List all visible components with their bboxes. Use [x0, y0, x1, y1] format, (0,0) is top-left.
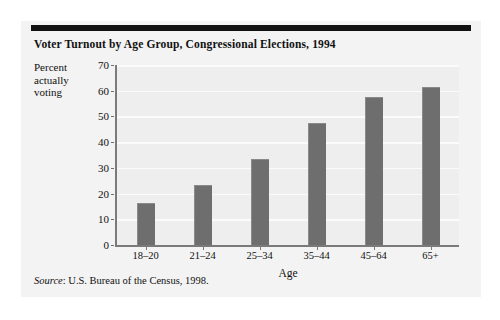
top-rule-decoration — [31, 25, 471, 31]
y-tick-label: 30 — [87, 162, 109, 174]
x-tick-label: 21–24 — [174, 250, 231, 261]
plot-area — [117, 65, 459, 245]
source-note: Source: U.S. Bureau of the Census, 1998. — [34, 275, 209, 286]
chart-title: Voter Turnout by Age Group, Congressiona… — [34, 38, 336, 50]
y-tick-label: 40 — [87, 136, 109, 148]
y-tick-label: 20 — [87, 188, 109, 200]
x-axis-line — [115, 245, 459, 247]
x-axis-tick-labels: 18–2021–2425–3435–4445–6465+ — [117, 250, 459, 261]
y-axis-line — [115, 65, 117, 246]
bar-slot — [174, 65, 231, 245]
x-tick-label: 65+ — [402, 250, 459, 261]
bar — [365, 97, 383, 245]
y-tick-label: 50 — [87, 110, 109, 122]
x-tick-label: 25–34 — [231, 250, 288, 261]
x-tick-label: 45–64 — [345, 250, 402, 261]
source-text: : U.S. Bureau of the Census, 1998. — [63, 275, 209, 286]
x-tick-label: 18–20 — [117, 250, 174, 261]
figure-box: Voter Turnout by Age Group, Congressiona… — [21, 21, 481, 297]
y-tick-mark — [111, 116, 114, 117]
bar-slot — [288, 65, 345, 245]
x-tick-label: 35–44 — [288, 250, 345, 261]
bar — [137, 203, 155, 245]
y-tick-label: 60 — [87, 85, 109, 97]
bar-slot — [402, 65, 459, 245]
bar-series — [117, 65, 459, 245]
y-tick-mark — [111, 65, 114, 66]
y-tick-mark — [111, 245, 114, 246]
y-tick-mark — [111, 168, 114, 169]
bar — [194, 185, 212, 245]
y-tick-mark — [111, 194, 114, 195]
bar — [422, 87, 440, 245]
y-axis-tick-labels: 010203040506070 — [87, 65, 109, 245]
y-tick-mark — [111, 91, 114, 92]
bar-slot — [117, 65, 174, 245]
y-tick-mark — [111, 219, 114, 220]
y-tick-label: 10 — [87, 213, 109, 225]
bar — [308, 123, 326, 245]
source-label: Source — [34, 275, 63, 286]
plot-wrapper: 010203040506070 18–2021–2425–3435–4445–6… — [87, 65, 459, 270]
bar-slot — [345, 65, 402, 245]
y-tick-mark — [111, 142, 114, 143]
bar-slot — [231, 65, 288, 245]
bar — [251, 159, 269, 245]
y-tick-label: 70 — [87, 59, 109, 71]
y-tick-label: 0 — [87, 239, 109, 251]
